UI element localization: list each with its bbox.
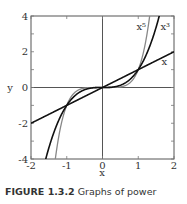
x-axis-label: x: [99, 167, 105, 178]
y-tick-label: 0: [22, 82, 28, 93]
y-axis-label: y: [6, 82, 13, 93]
curve-label: x³: [160, 21, 170, 32]
curve-label: x⁵: [136, 21, 146, 32]
figure-number: FIGURE 1.3.2: [5, 186, 75, 197]
x-tick-label: -1: [62, 160, 72, 171]
x-tick-label: 2: [171, 160, 177, 171]
y-tick-label: -4: [18, 154, 28, 165]
x-tick-label: 1: [135, 160, 141, 171]
y-tick-label: 4: [22, 11, 28, 22]
caption-text: Graphs of power: [78, 186, 157, 197]
y-tick-label: 2: [22, 46, 28, 57]
curve-label: x: [161, 56, 167, 67]
power-functions-chart: -2-1012-4-2024 x⁵x³x x y: [0, 0, 187, 180]
figure-caption: FIGURE 1.3.2 Graphs of power: [5, 186, 156, 197]
y-tick-label: -2: [18, 118, 28, 129]
